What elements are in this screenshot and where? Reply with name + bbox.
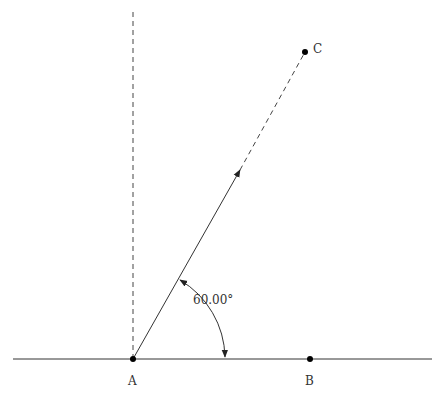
point-b[interactable] — [307, 356, 313, 362]
ray-ac-solid — [133, 170, 240, 359]
point-a-label: A — [127, 374, 137, 388]
point-a[interactable] — [130, 356, 136, 362]
angle-label: 60.00° — [193, 293, 233, 307]
point-b-label: B — [305, 374, 314, 388]
point-c-label: C — [313, 42, 322, 56]
point-c[interactable] — [302, 49, 308, 55]
ray-ac-dashed-extension — [240, 52, 305, 170]
geometry-diagram: 60.00° A B C — [0, 0, 442, 397]
angle-arc — [180, 280, 225, 357]
